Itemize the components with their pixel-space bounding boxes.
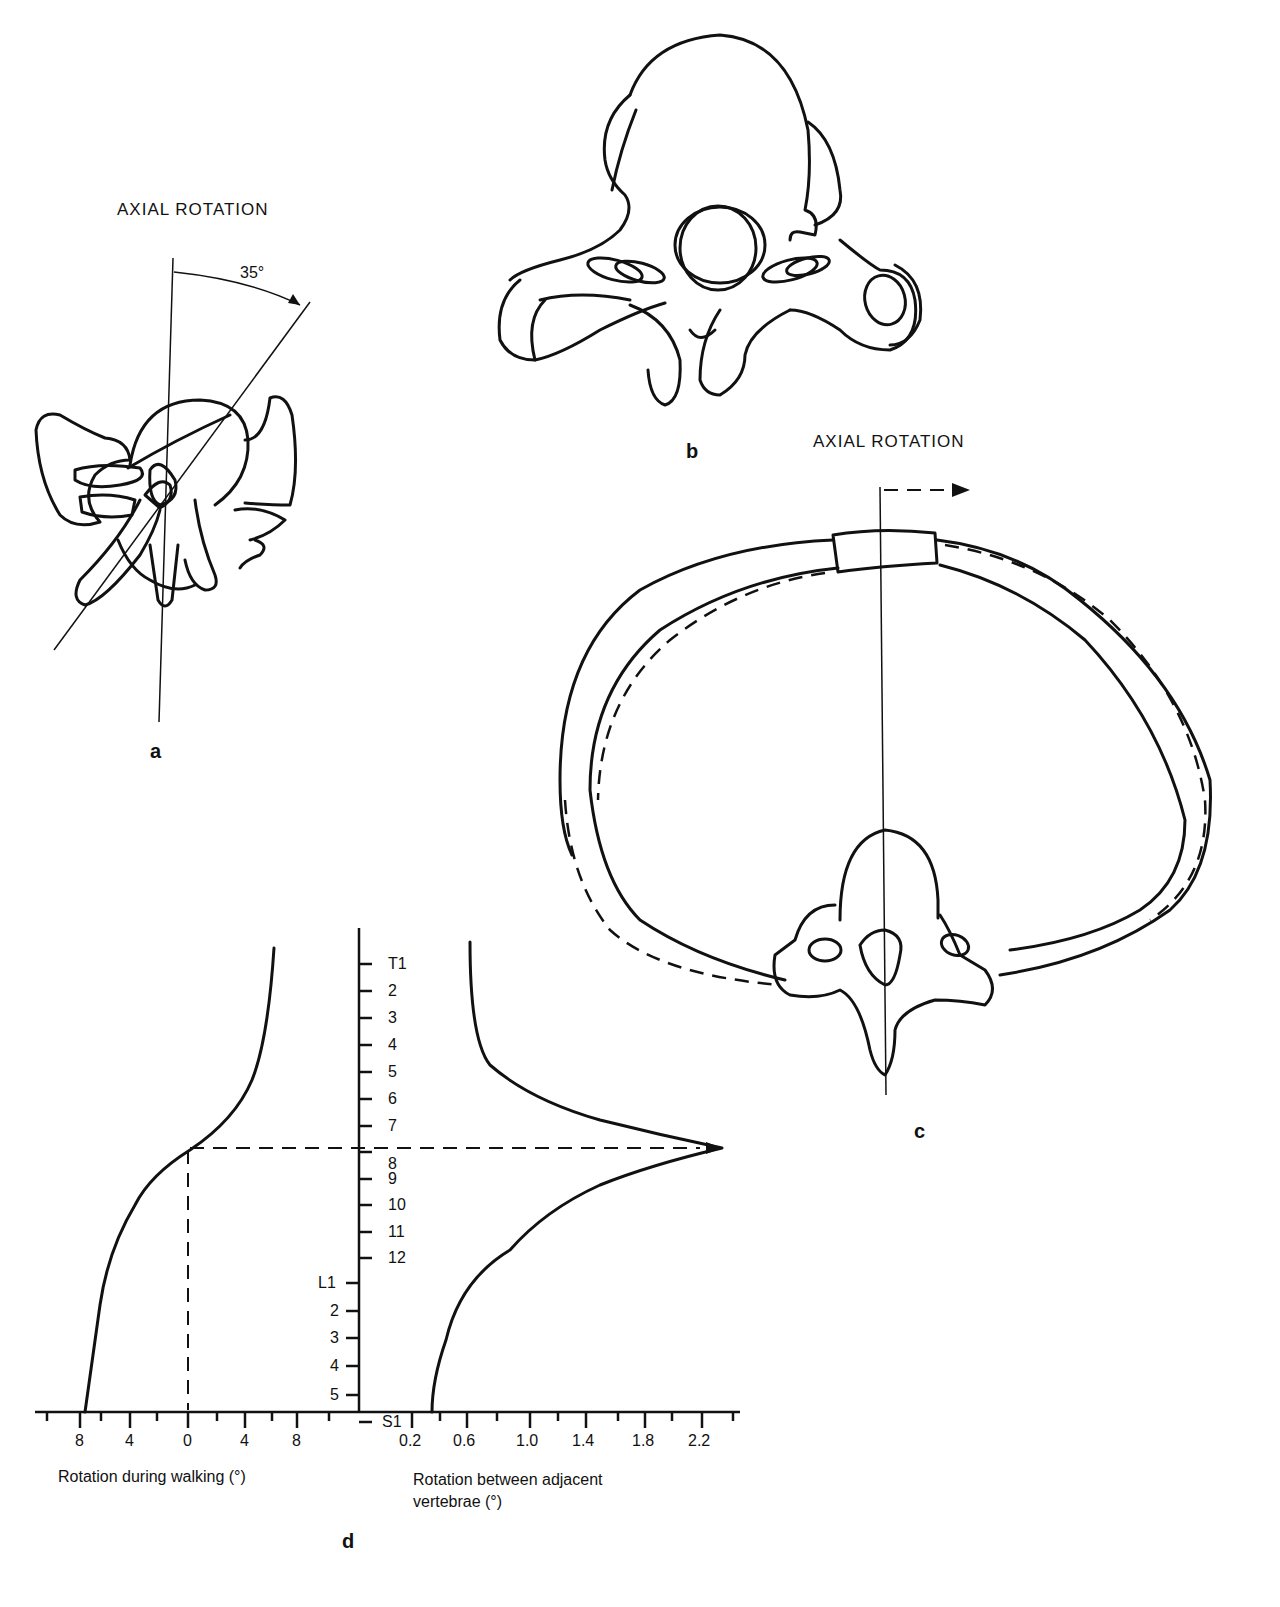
walking-rotation-curve — [85, 948, 274, 1412]
panel-d-letter: d — [342, 1530, 354, 1553]
right-tick-1-4: 1.4 — [572, 1432, 594, 1450]
adjacent-rotation-curve — [432, 942, 722, 1412]
level-label-t5: 5 — [388, 1063, 397, 1081]
level-label-t7: 7 — [388, 1117, 397, 1135]
level-label-t9: 9 — [388, 1170, 397, 1188]
right-tick-0-6: 0.6 — [453, 1432, 475, 1450]
left-tick-8a: 8 — [75, 1432, 84, 1450]
level-label-t10: 10 — [388, 1196, 406, 1214]
level-label-t12: 12 — [388, 1249, 406, 1267]
level-label-l2: 2 — [330, 1302, 339, 1320]
panel-c-ribcage-illustration — [560, 483, 1211, 1095]
left-tick-0: 0 — [183, 1432, 192, 1450]
level-label-l4: 4 — [330, 1357, 339, 1375]
left-tick-8b: 8 — [292, 1432, 301, 1450]
level-label-l5: 5 — [330, 1386, 339, 1404]
figure-drawing — [0, 0, 1280, 1607]
right-tick-1-8: 1.8 — [632, 1432, 654, 1450]
level-label-t4: 4 — [388, 1036, 397, 1054]
left-x-axis-title: Rotation during walking (°) — [58, 1467, 246, 1487]
right-tick-0-2: 0.2 — [399, 1432, 421, 1450]
panel-a-vertebra-illustration — [36, 258, 310, 722]
level-label-t11: 11 — [388, 1223, 405, 1241]
level-label-l3: 3 — [330, 1329, 339, 1347]
right-tick-1-0: 1.0 — [516, 1432, 538, 1450]
level-label-t2: 2 — [388, 982, 397, 1000]
right-x-axis-title-line2: vertebrae (°) — [413, 1492, 502, 1512]
level-label-s1: S1 — [382, 1413, 402, 1431]
left-tick-4a: 4 — [125, 1432, 134, 1450]
level-label-l1: L1 — [318, 1274, 336, 1292]
left-tick-4b: 4 — [240, 1432, 249, 1450]
level-label-t6: 6 — [388, 1090, 397, 1108]
level-label-t3: 3 — [388, 1009, 397, 1027]
right-x-axis-title-line1: Rotation between adjacent — [413, 1470, 602, 1490]
right-tick-2-2: 2.2 — [688, 1432, 710, 1450]
panel-b-vertebra-illustration — [499, 35, 921, 405]
level-label-t1: T1 — [388, 955, 407, 973]
